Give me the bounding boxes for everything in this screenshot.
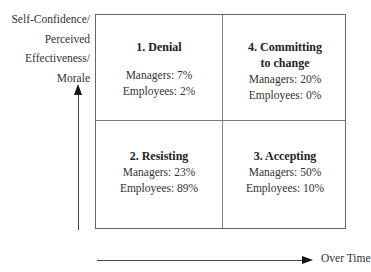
quadrant-title: 1. Denial: [96, 39, 222, 55]
quadrant-title: 2. Resisting: [96, 148, 222, 164]
y-axis-arrow-line: [78, 94, 79, 230]
x-axis-arrow-head-icon: [302, 256, 313, 264]
managers-value: Managers: 50%: [223, 164, 347, 180]
managers-value: Managers: 23%: [96, 164, 222, 180]
grid-horizontal-divider: [96, 120, 345, 121]
managers-value: Managers: 7%: [96, 67, 222, 83]
employees-value: Employees: 10%: [223, 180, 347, 196]
y-axis-label-line: Perceived: [11, 30, 90, 50]
y-axis-label: Self-Confidence/ Perceived Effectiveness…: [11, 10, 90, 88]
quadrant-grid: 1. Denial Managers: 7% Employees: 2% 4. …: [95, 14, 346, 229]
employees-value: Employees: 2%: [96, 83, 222, 99]
employees-value: Employees: 0%: [223, 87, 347, 103]
managers-value: Managers: 20%: [223, 71, 347, 87]
quadrant-accepting: 3. Accepting Managers: 50% Employees: 10…: [223, 148, 347, 196]
quadrant-denial: 1. Denial Managers: 7% Employees: 2%: [96, 39, 222, 99]
employees-value: Employees: 89%: [96, 180, 222, 196]
x-axis-arrow-line: [97, 260, 303, 261]
y-axis-label-line: Self-Confidence/: [11, 10, 90, 30]
quadrant-title: 3. Accepting: [223, 148, 347, 164]
quadrant-committing: 4. Committing to change Managers: 20% Em…: [223, 39, 347, 103]
y-axis-label-line: Effectiveness/: [11, 49, 90, 69]
quadrant-title-line: to change: [223, 55, 347, 71]
x-axis-label: Over Time: [321, 252, 371, 264]
quadrant-title-line: 4. Committing: [223, 39, 347, 55]
quadrant-resisting: 2. Resisting Managers: 23% Employees: 89…: [96, 148, 222, 196]
